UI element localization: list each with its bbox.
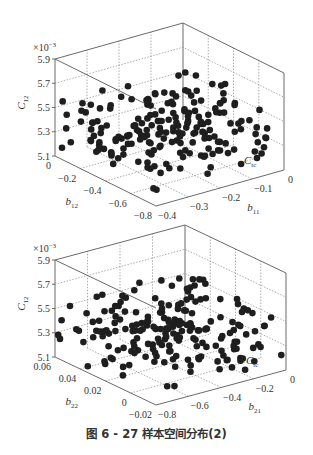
data-point — [128, 96, 135, 103]
data-point — [147, 140, 154, 147]
data-point — [209, 81, 216, 88]
data-point — [139, 120, 146, 127]
x-axis-label: b22 — [65, 395, 78, 410]
data-point — [163, 325, 170, 332]
scatter-plot-top: 5.95.75.55.35.1×10−3C120−0.2−0.4−0.6−0.8… — [15, 23, 293, 221]
data-point — [250, 345, 257, 352]
data-point — [225, 150, 232, 157]
x-tick-label: −0.02 — [129, 409, 152, 420]
data-point — [189, 310, 196, 317]
data-point — [178, 300, 185, 307]
data-point — [147, 112, 154, 119]
data-point — [217, 314, 224, 321]
data-point — [148, 122, 155, 129]
data-point — [118, 94, 125, 101]
data-point — [201, 130, 208, 137]
data-point — [148, 151, 155, 158]
data-point — [227, 120, 234, 127]
y-tick-label: −0.4 — [158, 210, 176, 221]
data-point — [222, 81, 229, 88]
data-point — [235, 120, 242, 127]
data-point — [171, 383, 178, 390]
data-point — [222, 140, 229, 147]
data-point — [88, 126, 95, 133]
z-tick-label: 5.9 — [38, 54, 51, 65]
data-point — [231, 327, 238, 334]
data-point — [205, 112, 212, 119]
data-point — [253, 124, 260, 131]
data-point — [132, 122, 139, 129]
data-point — [180, 154, 187, 161]
data-point — [173, 93, 180, 100]
data-point — [196, 276, 203, 283]
y-tick-label: −0.1 — [254, 183, 272, 194]
data-point — [110, 161, 117, 168]
data-point — [175, 306, 182, 313]
data-point — [200, 121, 207, 128]
data-point — [202, 326, 209, 333]
data-point — [173, 353, 180, 360]
data-point — [158, 108, 165, 115]
data-point — [202, 281, 209, 288]
data-point — [144, 164, 151, 171]
data-point — [215, 139, 222, 146]
data-point — [238, 126, 245, 133]
data-point — [135, 159, 142, 166]
data-point — [229, 319, 236, 326]
data-point — [203, 344, 210, 351]
data-point — [91, 133, 98, 140]
data-point — [207, 164, 214, 171]
data-point — [165, 116, 172, 123]
data-point — [177, 165, 184, 172]
data-point — [68, 139, 75, 146]
data-point — [103, 122, 110, 129]
data-point — [177, 133, 184, 140]
data-point — [168, 98, 175, 105]
data-point — [112, 328, 119, 335]
z-scale-label: ×10−3 — [33, 242, 57, 254]
data-point — [157, 170, 164, 177]
x-tick-label: 0.06 — [34, 361, 52, 372]
data-point — [101, 358, 108, 365]
data-point — [172, 114, 179, 121]
data-point — [96, 317, 103, 324]
data-point — [231, 102, 238, 109]
data-point — [268, 314, 275, 321]
data-point — [109, 307, 116, 314]
data-point — [176, 337, 183, 344]
data-point — [76, 328, 83, 335]
data-point — [150, 323, 157, 330]
x-tick-label: 0.02 — [84, 385, 102, 396]
data-point — [167, 348, 174, 355]
y-tick-label: −0.2 — [222, 192, 240, 203]
data-point — [196, 114, 203, 121]
data-point — [151, 163, 158, 170]
data-point — [246, 117, 253, 124]
data-point — [145, 96, 152, 103]
data-point — [161, 89, 168, 96]
data-point — [175, 72, 182, 79]
data-point — [107, 102, 114, 109]
data-point — [63, 111, 70, 118]
data-point — [59, 144, 66, 151]
data-point — [142, 354, 149, 361]
data-point — [133, 321, 140, 328]
data-point — [120, 151, 127, 158]
data-point — [229, 364, 236, 371]
data-point — [125, 83, 132, 90]
data-point — [231, 338, 238, 345]
data-point — [131, 287, 138, 294]
data-point — [105, 343, 112, 350]
data-point — [108, 149, 115, 156]
data-point — [216, 366, 223, 373]
data-point — [133, 309, 140, 316]
corner-label: Ctc — [246, 354, 258, 369]
data-point — [183, 296, 190, 303]
data-point — [202, 153, 209, 160]
data-point — [189, 324, 196, 331]
data-point — [193, 87, 200, 94]
data-point — [243, 331, 250, 338]
data-point — [185, 118, 192, 125]
data-point — [97, 105, 104, 112]
data-point — [262, 134, 269, 141]
